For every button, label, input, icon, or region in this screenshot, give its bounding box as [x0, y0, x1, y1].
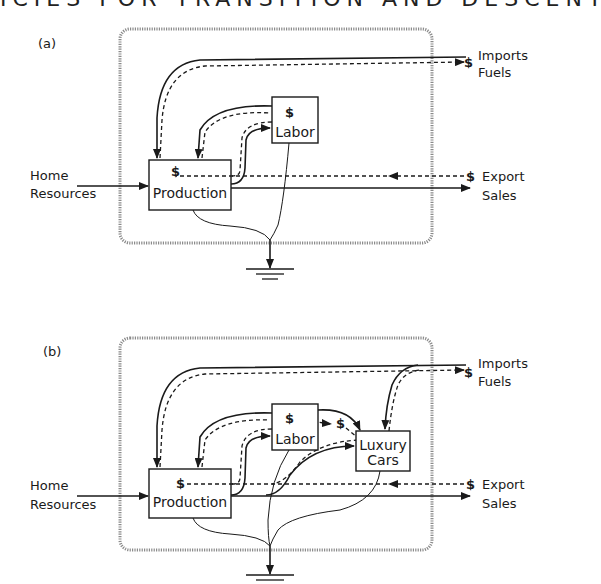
money-production-to-labor-b: [202, 420, 270, 467]
money-luxury-to-imports-b: [389, 370, 420, 431]
resources-label-b: Resources: [30, 497, 97, 512]
fuels-label-a: Fuels: [478, 65, 512, 80]
production-label-b: Production: [153, 494, 227, 510]
imports-to-luxury-flow-b: [385, 365, 418, 429]
export-label-a: Export: [482, 169, 525, 184]
production-to-labor-flow-b: [231, 436, 270, 495]
imports-dollar-b: $: [464, 365, 473, 380]
money-labor-to-production-b: [232, 429, 272, 484]
panel-b-label: (b): [43, 344, 61, 359]
production-heat-flow-b: [193, 518, 270, 546]
production-label-a: Production: [153, 185, 227, 201]
money-production-to-labor-a: [202, 113, 270, 158]
home-label-a: Home: [30, 168, 68, 183]
labor-dollar-b: $: [285, 411, 294, 426]
labor-heat-flow-b: [268, 450, 289, 546]
labor-to-production-flow-a: [198, 106, 272, 158]
labor-luxury-dollar-b: $: [336, 416, 345, 431]
export-money-arrow-b: [388, 480, 398, 488]
fuels-label-b: Fuels: [478, 374, 512, 389]
imports-label-a: Imports: [478, 48, 528, 63]
resources-label-a: Resources: [30, 186, 97, 201]
imports-label-b: Imports: [478, 356, 528, 371]
money-luxury-to-labor-arrow-b: [322, 419, 332, 427]
labor-label-b: Labor: [275, 431, 315, 447]
panel-a-label: (a): [38, 36, 56, 51]
export-dollar-b: $: [466, 477, 475, 492]
sales-label-a: Sales: [482, 188, 517, 203]
labor-to-production-flow-b: [198, 413, 272, 467]
sales-label-b: Sales: [482, 496, 517, 511]
labor-dollar-a: $: [285, 105, 294, 120]
labor-label-a: Labor: [275, 124, 315, 140]
panel-b: (b) $ Imports Fuels $ $ Production $ Lab…: [30, 338, 528, 580]
luxury-label-b: Luxury: [359, 437, 407, 453]
money-labor-to-production-a: [232, 122, 272, 176]
export-money-arrow-a: [388, 172, 398, 180]
labor-heat-flow-a: [270, 143, 289, 240]
cars-label-b: Cars: [367, 452, 398, 468]
production-heat-flow-a: [193, 210, 270, 240]
home-label-b: Home: [30, 478, 68, 493]
imports-dollar-a: $: [464, 55, 473, 70]
production-dollar-a: $: [171, 164, 180, 179]
export-dollar-a: $: [466, 169, 475, 184]
production-dollar-b: $: [176, 476, 185, 491]
panel-a: (a) $ Imports Fuels $ Production $ Labor…: [30, 29, 528, 279]
export-label-b: Export: [482, 477, 525, 492]
